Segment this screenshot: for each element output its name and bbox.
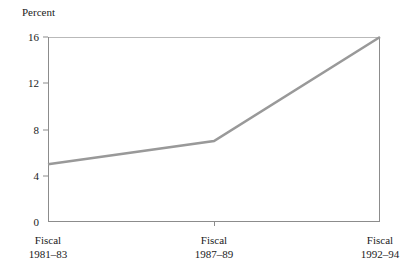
x-tick-label-2-line1: Fiscal [361, 233, 400, 247]
chart-figure: Percent 16 12 8 4 0 Fiscal 1981–83 Fisca… [0, 0, 412, 272]
x-tick-label-1-line1: Fiscal [195, 233, 234, 247]
x-tick-label-1: Fiscal 1987–89 [195, 233, 234, 261]
x-tick-label-0: Fiscal 1981–83 [29, 233, 68, 261]
y-tick-label-12: 12 [28, 77, 39, 89]
y-tick-label-0: 0 [34, 216, 40, 228]
x-tick-label-2-line2: 1992–94 [361, 247, 400, 261]
x-tick-label-2: Fiscal 1992–94 [361, 233, 400, 261]
x-tick-label-1-line2: 1987–89 [195, 247, 234, 261]
y-axis-title: Percent [22, 6, 55, 18]
plot-area: 16 12 8 4 0 Fiscal 1981–83 Fiscal 1987–8… [48, 37, 380, 222]
x-tick-label-0-line1: Fiscal [29, 233, 68, 247]
x-tick-label-0-line2: 1981–83 [29, 247, 68, 261]
data-series-line [48, 37, 380, 222]
y-tick-label-8: 8 [34, 124, 40, 136]
y-tick-label-16: 16 [28, 31, 39, 43]
y-tick-label-4: 4 [34, 170, 40, 182]
